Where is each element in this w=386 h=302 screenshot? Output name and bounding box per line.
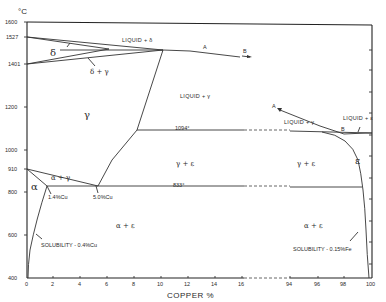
point-a-left: A (203, 44, 207, 50)
arrow-markers (242, 55, 282, 112)
label-1-4-cu: 1.4%Cu (48, 194, 68, 200)
y-tick-1200: 1200 (5, 104, 17, 110)
x-tick-96: 96 (314, 281, 320, 287)
label-liquid-gamma-left: LIQUID + γ (180, 93, 210, 99)
iron-copper-phase-diagram: °C 1600 1527 1401 1200 1000 910 (0, 0, 386, 302)
x-tick-100: 100 (366, 281, 375, 287)
x-tick-12: 12 (184, 281, 190, 287)
y-axis-unit: °C (18, 7, 27, 16)
y-tick-910: 910 (8, 166, 17, 172)
label-1094: 1094° (175, 125, 189, 131)
x-tick-2: 2 (51, 281, 54, 287)
x-tick-98: 98 (340, 281, 346, 287)
y-tick-1000: 1000 (5, 147, 17, 153)
x-tick-0: 0 (25, 281, 28, 287)
alpha-solvus (28, 186, 47, 278)
y-tick-1527: 1527 (6, 34, 18, 40)
label-delta: δ (50, 47, 56, 58)
label-epsilon: ε (355, 155, 360, 166)
alpha-solubility-leader (36, 234, 42, 239)
label-alpha-solubility: SOLUBILITY - 0.4%Cu (41, 242, 97, 248)
label-5-0-cu: 5.0%Cu (93, 194, 113, 200)
label-gamma-epsilon-right: γ + ε (297, 160, 315, 168)
x-tick-6: 6 (105, 281, 108, 287)
label-alpha-epsilon-right: α + ε (304, 222, 323, 230)
label-liquid-epsilon: LIQUID + ε (343, 115, 373, 121)
x-tick-4: 4 (78, 281, 81, 287)
epsilon-solvus (322, 132, 369, 278)
epsilon-solubility-leader (350, 232, 358, 241)
label-epsilon-solubility: SOLUBILITY - 0.15%Fe (293, 246, 352, 252)
x-tick-14: 14 (211, 281, 217, 287)
label-833: 833° (173, 182, 184, 188)
label-delta-gamma: δ + γ (90, 68, 109, 76)
axes (27, 22, 372, 278)
x-tick-16: 16 (238, 281, 244, 287)
y-tick-1401: 1401 (8, 61, 20, 67)
gamma-solidus (137, 50, 163, 130)
label-liquid-gamma-right: LIQUID + γ (284, 119, 314, 125)
x-tick-8: 8 (132, 281, 135, 287)
point-b-left: B (243, 48, 247, 54)
label-alpha: α (31, 181, 38, 192)
label-alpha-gamma: α + γ (51, 174, 70, 182)
gamma-epsilon-boundary (98, 130, 137, 186)
y-tick-800: 800 (8, 189, 17, 195)
y-tick-400: 400 (8, 275, 17, 281)
liquid-epsilon-leader (358, 127, 360, 132)
label-liquid-delta: LIQUID + δ (122, 37, 153, 43)
x-tick-10: 10 (157, 281, 163, 287)
label-gamma: γ (84, 109, 90, 120)
x-tick-94: 94 (286, 281, 292, 287)
label-gamma-epsilon-left: γ + ε (176, 160, 194, 168)
point-b-right: B (341, 126, 345, 132)
y-tick-1600: 1600 (5, 19, 17, 25)
liquid-epsilon-boundary (344, 133, 372, 134)
point-a-right: A (272, 103, 276, 109)
top-frame-line (27, 22, 372, 25)
x-axis-title: COPPER % (167, 291, 214, 300)
eutectoid-line-833 (47, 186, 362, 187)
y-tick-600: 600 (8, 232, 17, 238)
label-alpha-epsilon-left: α + ε (116, 222, 135, 230)
